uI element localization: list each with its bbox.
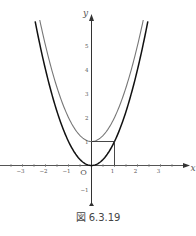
x-tick-label: 3 (157, 168, 161, 174)
figure-caption: 図 6.3.19 (0, 209, 196, 224)
y-axis-arrow-icon (89, 14, 94, 21)
y-axis-label: y (82, 8, 89, 18)
x-tick-label: −3 (16, 168, 25, 174)
x-axis-arrow-icon (183, 163, 190, 168)
y-tick-label: 1 (85, 139, 89, 145)
y-tick-label: −1 (80, 187, 88, 193)
y-tick-label: 2 (85, 115, 89, 121)
y-axis-bottom-marker (89, 202, 94, 206)
x-axis-label: x (190, 163, 195, 173)
x-tick-label: 2 (134, 168, 138, 174)
y-tick-label: 5 (85, 43, 89, 49)
graph: −3−2−1123−112345Oxy (0, 0, 196, 206)
y-tick-label: 4 (85, 67, 89, 73)
x-tick-label: −2 (39, 168, 47, 174)
origin-label: O (80, 168, 87, 177)
x-tick-label: −1 (62, 168, 70, 174)
y-tick-label: 3 (85, 91, 89, 97)
axes (0, 14, 190, 206)
x-tick-label: 1 (111, 168, 115, 174)
